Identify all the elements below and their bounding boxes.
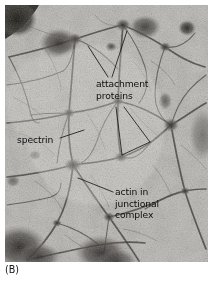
label-attachment-proteins: attachment proteins [96,78,148,101]
label-actin-junctional-complex: actin in junctional complex [115,186,159,221]
label-attachment-proteins-line2: proteins [96,90,148,102]
label-spectrin: spectrin [17,134,53,146]
panel-caption: (B) [5,264,19,276]
label-spectrin-line1: spectrin [17,134,53,146]
label-actin-line3: complex [115,209,159,221]
label-attachment-proteins-line1: attachment [96,78,148,90]
label-actin-line1: actin in [115,186,159,198]
figure-panel-b: .fil { stroke:#4c4742; stroke-width:1.05… [0,0,213,282]
label-actin-line2: junctional [115,198,159,210]
